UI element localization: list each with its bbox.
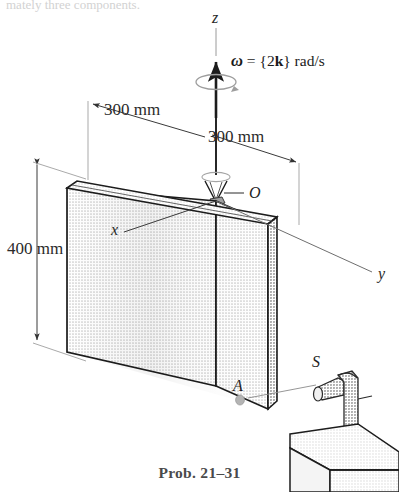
nozzle-mount-tab — [358, 396, 372, 399]
point-a-marker — [236, 395, 245, 405]
dim-300-left-label: 300 mm — [104, 101, 160, 118]
point-a-label: A — [233, 378, 243, 394]
x-axis-label: x — [111, 222, 118, 238]
figure-page: mately three components. — [0, 0, 399, 492]
dim-300-right-label: 300 mm — [208, 128, 264, 145]
equals-sign: = — [247, 52, 256, 69]
z-axis-label: z — [212, 10, 218, 26]
brace-open: { — [259, 52, 266, 69]
dim-400-label: 400 mm — [7, 240, 63, 257]
omega-magnitude: 2 — [267, 52, 275, 69]
omega-units: rad/s — [295, 52, 325, 69]
plate-face-shading — [67, 188, 268, 409]
point-s-label: S — [312, 354, 320, 370]
angular-velocity-label: ω = {2k} rad/s — [231, 53, 325, 70]
plate-right-side-edge — [268, 217, 277, 409]
figure-caption: Prob. 21–31 — [0, 464, 399, 482]
brace-close: } — [283, 52, 290, 69]
k-unit-vector: k — [275, 52, 284, 69]
y-axis-label: y — [378, 266, 385, 282]
omega-symbol: ω — [231, 51, 243, 70]
point-o-label: O — [249, 185, 261, 201]
nozzle-opening — [314, 387, 323, 401]
dim-400-ext-top — [33, 162, 86, 179]
